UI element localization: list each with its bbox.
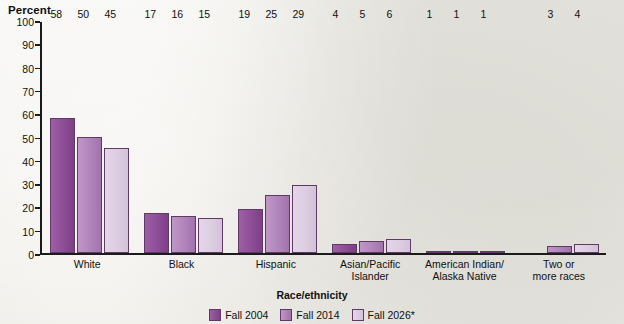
- legend-label: Fall 2026*: [368, 309, 415, 321]
- x-category-label: Two ormore races: [512, 258, 606, 282]
- bar: 4: [332, 244, 357, 253]
- bar-value-label: 5: [360, 9, 366, 20]
- x-category-line: Islander: [323, 270, 417, 282]
- y-tick-20: 20: [6, 203, 34, 213]
- bar: 6: [386, 239, 411, 253]
- bar-value-label: 17: [145, 9, 157, 20]
- bar-slot: 1: [426, 22, 451, 253]
- bar: 1: [480, 251, 505, 253]
- bar-value-label: 4: [575, 9, 581, 20]
- y-tick-50: 50: [6, 134, 34, 144]
- bar-slot: 16: [171, 22, 196, 253]
- bar-value-label: 15: [199, 9, 211, 20]
- x-category-line: Alaska Native: [417, 270, 511, 282]
- y-tick-mark: [35, 114, 40, 116]
- bar-group: 585045: [42, 22, 136, 253]
- x-axis-title: Race/ethnicity: [0, 289, 624, 301]
- bar-value-label: 4: [333, 9, 339, 20]
- bar: 17: [144, 213, 169, 253]
- y-tick-mark: [35, 68, 40, 70]
- bar: 19: [238, 209, 263, 253]
- legend-item[interactable]: Fall 2026*: [352, 309, 415, 321]
- y-tick-mark: [35, 21, 40, 23]
- bar-value-label: 6: [387, 9, 393, 20]
- y-tick-mark: [35, 254, 40, 256]
- plot-area: 1009080706050403020100 58504517161519252…: [40, 22, 606, 255]
- legend-swatch: [352, 309, 364, 321]
- bar-value-label: 25: [266, 9, 278, 20]
- x-category-label: Asian/PacificIslander: [323, 258, 417, 282]
- x-category-label: American Indian/Alaska Native: [417, 258, 511, 282]
- bar: 1: [426, 251, 451, 253]
- x-category-line: American Indian/: [417, 258, 511, 270]
- legend-item[interactable]: Fall 2004: [209, 309, 268, 321]
- bar-slot: 6: [386, 22, 411, 253]
- bar-slot: 25: [265, 22, 290, 253]
- bar-slot: 4: [332, 22, 357, 253]
- y-tick-mark: [35, 184, 40, 186]
- legend-item[interactable]: Fall 2014: [280, 309, 339, 321]
- x-category-label: White: [40, 258, 134, 270]
- y-tick-mark: [35, 91, 40, 93]
- bar-slot: 17: [144, 22, 169, 253]
- y-tick-0: 0: [6, 250, 34, 260]
- bar-slot: 1: [453, 22, 478, 253]
- x-category-line: Black: [134, 258, 228, 270]
- bar: 4: [574, 244, 599, 253]
- y-tick-60: 60: [6, 110, 34, 120]
- bar-chart: Percent 1009080706050403020100 585045171…: [0, 0, 624, 324]
- bar: 45: [104, 148, 129, 253]
- bar-value-label: 45: [105, 9, 117, 20]
- y-tick-90: 90: [6, 40, 34, 50]
- y-tick-100: 100: [6, 17, 34, 27]
- legend-swatch: [280, 309, 292, 321]
- bar: 1: [453, 251, 478, 253]
- bar-slot: 3: [547, 22, 572, 253]
- bar-slot: 19: [238, 22, 263, 253]
- bar: 25: [265, 195, 290, 253]
- bar-group: 171615: [136, 22, 230, 253]
- y-tick-40: 40: [6, 157, 34, 167]
- bar-groups: 58504517161519252945611134: [42, 22, 606, 253]
- bar-group: 456: [324, 22, 418, 253]
- x-category-line: Asian/Pacific: [323, 258, 417, 270]
- bar: 29: [292, 185, 317, 253]
- bar-value-label: 1: [481, 9, 487, 20]
- y-tick-80: 80: [6, 64, 34, 74]
- bar-slot: 50: [77, 22, 102, 253]
- y-tick-70: 70: [6, 87, 34, 97]
- y-tick-mark: [35, 44, 40, 46]
- bar-value-label: 29: [293, 9, 305, 20]
- bar: 5: [359, 241, 384, 253]
- y-tick-mark: [35, 138, 40, 140]
- bar-slot: 4: [574, 22, 599, 253]
- bar-value-label: 1: [454, 9, 460, 20]
- bar-value-label: 50: [78, 9, 90, 20]
- y-axis-title: Percent: [8, 4, 51, 16]
- bar-value-label: 16: [172, 9, 184, 20]
- x-category-line: more races: [512, 270, 606, 282]
- chart-legend: Fall 2004Fall 2014Fall 2026*: [0, 309, 624, 321]
- bar-slot: 58: [50, 22, 75, 253]
- bar-group: 111: [418, 22, 512, 253]
- bar-slot: 29: [292, 22, 317, 253]
- bar: 16: [171, 216, 196, 253]
- y-tick-10: 10: [6, 227, 34, 237]
- bar-slot: 1: [480, 22, 505, 253]
- legend-label: Fall 2014: [296, 309, 339, 321]
- x-category-label: Hispanic: [229, 258, 323, 270]
- bar: 50: [77, 137, 102, 254]
- y-tick-mark: [35, 161, 40, 163]
- legend-swatch: [209, 309, 221, 321]
- bar: 15: [198, 218, 223, 253]
- bar-slot: 15: [198, 22, 223, 253]
- bar-slot: 45: [104, 22, 129, 253]
- bar-value-label: 58: [51, 9, 63, 20]
- bar-value-label: 19: [239, 9, 251, 20]
- x-category-label: Black: [134, 258, 228, 270]
- bar: 3: [547, 246, 572, 253]
- bar-value-label: 3: [548, 9, 554, 20]
- bar-value-label: 1: [427, 9, 433, 20]
- bar-group: 192529: [230, 22, 324, 253]
- x-axis-line: [40, 253, 606, 255]
